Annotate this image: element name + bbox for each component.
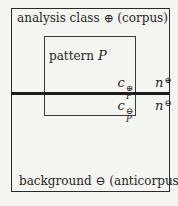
diagram-canvas: analysis class ⊕ (corpus) pattern P c⊕P … xyxy=(0,0,178,206)
count-base: c xyxy=(118,75,125,90)
corpus-size-label: n⊕ xyxy=(155,76,172,89)
count-base: n xyxy=(155,75,163,90)
plus-superscript: ⊕ xyxy=(164,75,171,85)
anticorpus-size-label: n⊖ xyxy=(155,99,172,112)
pattern-anticorpus-count-label: c⊖P xyxy=(118,99,133,123)
pattern-label: pattern P xyxy=(49,49,107,64)
count-scripts: ⊕P xyxy=(126,84,133,100)
pattern-variable: P xyxy=(98,48,107,63)
count-base: n xyxy=(155,98,163,113)
analysis-class-label: analysis class ⊕ (corpus) xyxy=(17,12,168,26)
pattern-corpus-count-label: c⊕P xyxy=(118,76,133,100)
pattern-subscript: P xyxy=(126,115,132,123)
corpus-anticorpus-divider xyxy=(11,92,170,95)
count-base: c xyxy=(118,98,125,113)
background-label: background ⊖ (anticorpus) xyxy=(19,175,178,189)
minus-superscript: ⊖ xyxy=(164,98,171,108)
pattern-word: pattern xyxy=(49,49,94,63)
count-scripts: ⊖P xyxy=(126,107,133,123)
